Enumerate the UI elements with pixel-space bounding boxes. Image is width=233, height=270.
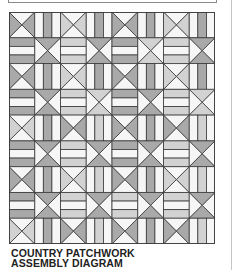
quilt-block-rail-fence — [164, 89, 190, 115]
quilt-block-hourglass — [9, 167, 35, 193]
quilt-block-rail-fence — [112, 89, 138, 115]
quilt-block-hourglass — [61, 115, 87, 141]
quilt-block-hourglass — [86, 192, 112, 218]
quilt-block-hourglass — [189, 141, 215, 167]
quilt-block-hourglass — [86, 141, 112, 167]
quilt-block-rail-fence — [164, 38, 190, 64]
quilt-block-rail-fence — [86, 115, 112, 141]
quilt-block-rail-fence — [9, 141, 35, 167]
quilt-block-hourglass — [164, 115, 190, 141]
quilt-block-rail-fence — [112, 192, 138, 218]
quilt-block-hourglass — [61, 12, 87, 38]
quilt-block-rail-fence — [35, 218, 61, 244]
quilt-block-hourglass — [86, 89, 112, 115]
quilt-block-rail-fence — [86, 64, 112, 90]
diagram-caption: COUNTRY PATCHWORK ASSEMBLY DIAGRAM — [11, 248, 135, 268]
quilt-block-hourglass — [61, 218, 87, 244]
quilt-block-hourglass — [164, 12, 190, 38]
quilt-block-rail-fence — [86, 12, 112, 38]
quilt-block-hourglass — [112, 167, 138, 193]
quilt-block-hourglass — [9, 218, 35, 244]
quilt-block-hourglass — [112, 12, 138, 38]
quilt-block-rail-fence — [9, 89, 35, 115]
quilt-block-hourglass — [9, 115, 35, 141]
quilt-block-hourglass — [189, 192, 215, 218]
quilt-block-rail-fence — [61, 192, 87, 218]
quilt-block-rail-fence — [164, 192, 190, 218]
quilt-block-rail-fence — [164, 141, 190, 167]
quilt-block-hourglass — [9, 12, 35, 38]
quilt-block-rail-fence — [35, 12, 61, 38]
quilt-block-rail-fence — [138, 12, 164, 38]
quilt-block-hourglass — [164, 167, 190, 193]
quilt-block-hourglass — [189, 89, 215, 115]
quilt-block-rail-fence — [112, 141, 138, 167]
quilt-block-rail-fence — [35, 167, 61, 193]
quilt-block-rail-fence — [189, 167, 215, 193]
quilt-block-rail-fence — [189, 12, 215, 38]
quilt-block-rail-fence — [35, 64, 61, 90]
top-frame-box — [8, 0, 217, 3]
quilt-block-hourglass — [189, 38, 215, 64]
quilt-block-rail-fence — [61, 89, 87, 115]
quilt-block-hourglass — [112, 218, 138, 244]
quilt-block-rail-fence — [112, 38, 138, 64]
quilt-block-hourglass — [9, 64, 35, 90]
quilt-assembly-diagram — [9, 12, 215, 244]
quilt-block-hourglass — [35, 192, 61, 218]
quilt-block-hourglass — [35, 89, 61, 115]
quilt-block-hourglass — [35, 141, 61, 167]
quilt-block-rail-fence — [138, 167, 164, 193]
quilt-block-rail-fence — [138, 218, 164, 244]
quilt-block-rail-fence — [61, 141, 87, 167]
quilt-block-rail-fence — [61, 38, 87, 64]
quilt-block-rail-fence — [9, 192, 35, 218]
quilt-block-hourglass — [35, 38, 61, 64]
quilt-block-rail-fence — [189, 115, 215, 141]
quilt-block-rail-fence — [9, 38, 35, 64]
quilt-block-rail-fence — [189, 64, 215, 90]
quilt-block-hourglass — [164, 218, 190, 244]
quilt-block-rail-fence — [86, 218, 112, 244]
quilt-block-rail-fence — [35, 115, 61, 141]
quilt-block-hourglass — [138, 38, 164, 64]
quilt-block-hourglass — [138, 192, 164, 218]
quilt-block-hourglass — [61, 64, 87, 90]
page-edge-rule — [231, 0, 232, 270]
quilt-block-hourglass — [138, 141, 164, 167]
quilt-block-rail-fence — [138, 115, 164, 141]
quilt-block-hourglass — [112, 115, 138, 141]
quilt-block-hourglass — [86, 38, 112, 64]
quilt-block-hourglass — [164, 64, 190, 90]
quilt-block-rail-fence — [86, 167, 112, 193]
quilt-block-hourglass — [138, 89, 164, 115]
quilt-block-rail-fence — [189, 218, 215, 244]
quilt-block-hourglass — [61, 167, 87, 193]
caption-line-2: ASSEMBLY DIAGRAM — [11, 258, 135, 268]
quilt-block-hourglass — [112, 64, 138, 90]
quilt-block-rail-fence — [138, 64, 164, 90]
